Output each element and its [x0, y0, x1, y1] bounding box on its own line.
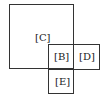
- label-b: [B]: [54, 52, 69, 62]
- label-d: [D]: [79, 52, 95, 62]
- label-e: [E]: [55, 77, 70, 87]
- label-c: [C]: [35, 33, 50, 43]
